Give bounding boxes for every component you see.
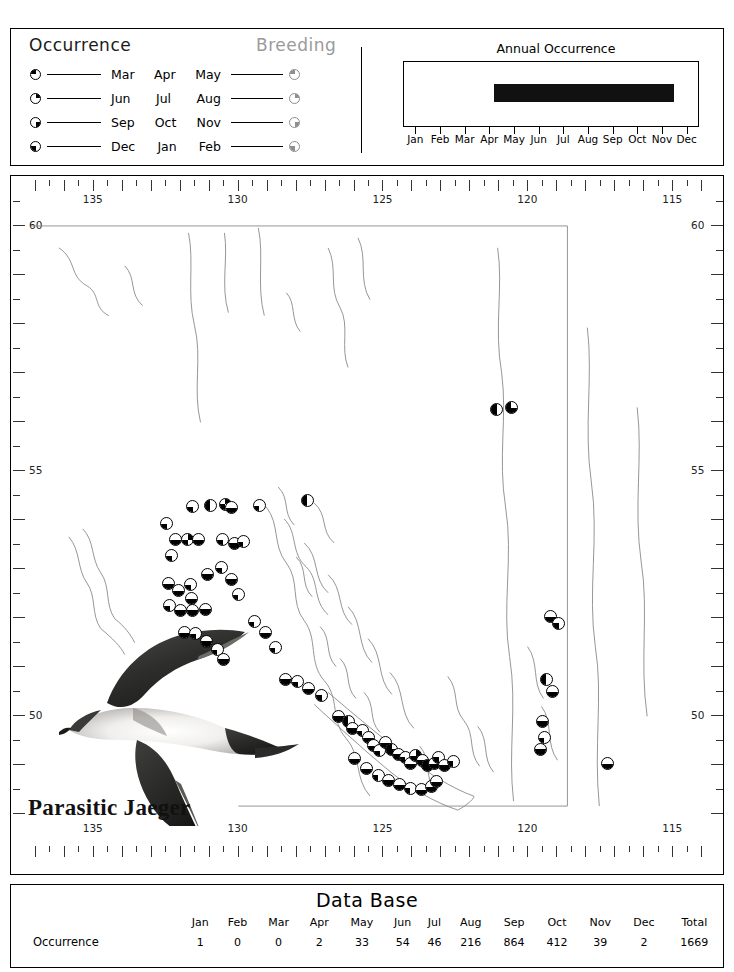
- month-label: Aug: [578, 133, 599, 145]
- axis-tick: [716, 250, 723, 251]
- axis-tick: [281, 846, 282, 852]
- longitude-label-top: 135: [83, 193, 103, 205]
- axis-tick: [382, 846, 383, 857]
- occurrence-marker: [201, 566, 214, 585]
- axis-tick: [310, 180, 311, 186]
- axis-tick: [716, 593, 723, 594]
- axis-tick: [296, 180, 297, 191]
- axis-tick: [180, 180, 181, 191]
- table-column-header: Oct: [536, 913, 579, 932]
- axis-tick: [527, 846, 528, 857]
- database-panel: Data Base JanFebMarAprMayJunJulAugSepOct…: [10, 884, 724, 968]
- axis-tick: [397, 180, 398, 186]
- legend-row: SepOctNov: [11, 111, 359, 133]
- longitude-label-top: 125: [372, 193, 392, 205]
- occurrence-marker: [192, 531, 205, 550]
- occurrence-marker: [490, 401, 503, 420]
- legend-month-label: Jun: [111, 91, 131, 106]
- axis-tick: [13, 225, 25, 226]
- axis-tick: [701, 180, 702, 191]
- axis-tick: [716, 642, 723, 643]
- table-body: Occurrence10023354462168644123921669: [11, 932, 723, 952]
- axis-tick: [571, 846, 572, 852]
- axis-tick: [223, 846, 224, 852]
- axis-tick: [267, 846, 268, 857]
- axis-tick: [571, 180, 572, 186]
- occurrence-symbol-quarter-pie-tl: [11, 69, 41, 80]
- table-column-header: Jan: [183, 913, 218, 932]
- legend-connector-line: [231, 122, 283, 123]
- axis-tick: [614, 180, 615, 191]
- occurrence-marker: [315, 687, 328, 706]
- axis-tick: [716, 544, 723, 545]
- axis-tick: [13, 201, 20, 202]
- axis-tick: [354, 180, 355, 191]
- annual-occurrence-bar: [494, 84, 674, 102]
- axis-tick: [151, 180, 152, 191]
- axis-tick: [13, 421, 25, 422]
- occurrence-marker: [253, 497, 266, 516]
- axis-tick: [716, 691, 723, 692]
- month-label: Apr: [480, 133, 498, 145]
- table-cell: 0: [257, 932, 299, 952]
- legend-panel: Occurrence Breeding MarAprMayJunJulAugSe…: [10, 28, 724, 166]
- legend-breeding-title: Breeding: [256, 35, 336, 55]
- table-cell: 46: [420, 932, 449, 952]
- axis-tick: [194, 180, 195, 186]
- axis-tick: [711, 225, 723, 226]
- axis-tick: [600, 180, 601, 186]
- axis-tick: [716, 299, 723, 300]
- breeding-symbol-quarter-pie-bl-gray: [289, 141, 317, 152]
- axis-tick: [93, 846, 94, 857]
- month-label: Jul: [557, 133, 570, 145]
- legend-occurrence-title: Occurrence: [29, 35, 131, 55]
- axis-tick: [711, 764, 723, 765]
- month-label: Sep: [603, 133, 623, 145]
- axis-tick: [325, 846, 326, 857]
- occurrence-marker: [225, 499, 238, 518]
- legend-month-label: Aug: [197, 91, 221, 106]
- occurrence-symbol-quarter-pie-bl: [11, 141, 41, 152]
- axis-tick: [556, 846, 557, 857]
- month-label: May: [503, 133, 525, 145]
- table-column-header: Jul: [420, 913, 449, 932]
- occurrence-marker: [552, 615, 565, 634]
- axis-tick: [484, 180, 485, 186]
- axis-tick: [711, 372, 723, 373]
- axis-tick: [13, 666, 25, 667]
- axis-tick: [629, 846, 630, 852]
- axis-tick: [711, 568, 723, 569]
- axis-tick: [78, 180, 79, 186]
- axis-tick: [701, 846, 702, 857]
- axis-tick: [13, 544, 20, 545]
- occurrence-marker: [430, 773, 443, 792]
- axis-tick: [13, 764, 25, 765]
- axis-tick: [716, 201, 723, 202]
- occurrence-symbol-quarter-pie-br: [11, 117, 41, 128]
- axis-tick: [13, 568, 25, 569]
- month-label: Feb: [431, 133, 450, 145]
- annual-occurrence-month-labels: JanFebMarAprMayJunJulAugSepOctNovDec: [403, 133, 699, 149]
- axis-tick: [281, 180, 282, 186]
- month-label: Dec: [676, 133, 696, 145]
- table-column-header: Jun: [385, 913, 420, 932]
- table-row-label: Occurrence: [11, 932, 183, 952]
- annual-occurrence-chart: [403, 61, 699, 127]
- axis-tick: [13, 593, 20, 594]
- axis-tick: [711, 715, 723, 716]
- map-plot-area: [29, 208, 705, 826]
- axis-tick: [13, 642, 20, 643]
- axis-tick: [469, 180, 470, 191]
- axis-tick: [585, 846, 586, 857]
- axis-tick: [13, 274, 25, 275]
- occurrence-marker: [302, 680, 315, 699]
- axis-tick: [527, 180, 528, 191]
- month-label: Mar: [455, 133, 475, 145]
- axis-tick: [310, 846, 311, 852]
- legend-connector-line: [231, 98, 283, 99]
- occurrence-marker: [601, 755, 614, 774]
- axis-tick: [368, 846, 369, 852]
- axis-tick: [643, 180, 644, 191]
- axis-tick: [440, 180, 441, 191]
- table-cell: 0: [218, 932, 258, 952]
